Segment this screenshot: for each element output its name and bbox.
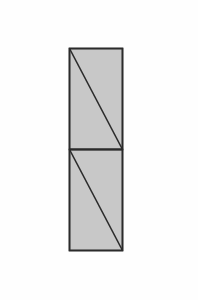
- stacked-rectangles-figure: [70, 49, 123, 251]
- diagram-canvas: [0, 0, 198, 300]
